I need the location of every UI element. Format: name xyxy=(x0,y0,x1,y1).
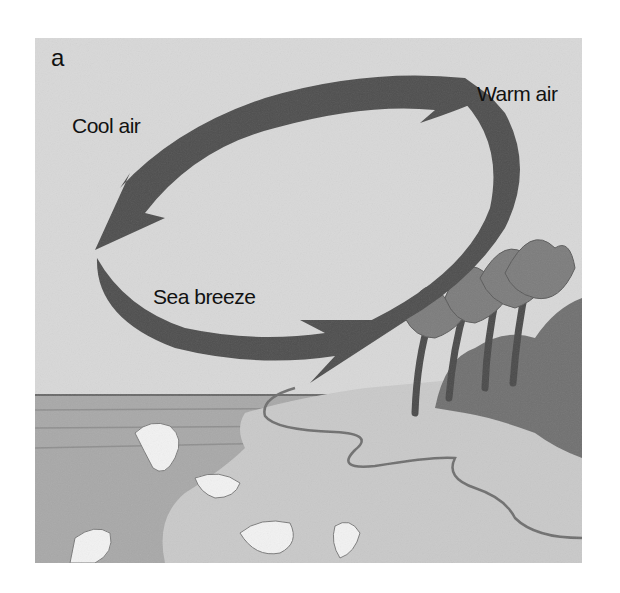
sea-breeze-label: Sea breeze xyxy=(153,285,255,309)
cool-air-label: Cool air xyxy=(72,114,140,138)
warm-air-label: Warm air xyxy=(477,82,557,106)
panel-letter: a xyxy=(51,44,64,72)
sea-breeze-illustration: a Cool air Warm air Sea breeze xyxy=(35,38,582,563)
